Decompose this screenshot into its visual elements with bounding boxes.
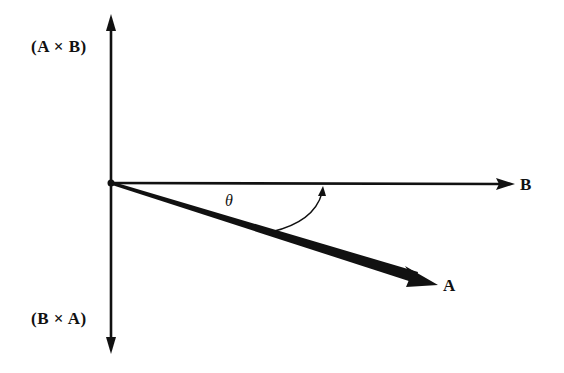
angle-arrowhead-icon [318,186,326,196]
label-vector-b: B [520,176,531,193]
label-angle-theta: θ [225,193,233,209]
cross-product-diagram: (A × B) (B × A) B A θ [0,0,564,373]
label-vector-a: A [443,277,455,294]
arrow-up-icon [106,14,116,31]
label-a-cross-b: (A × B) [31,38,87,55]
origin-point [108,180,115,187]
arrow-down-icon [106,337,116,354]
vector-b [111,178,515,190]
vector-a [110,181,438,287]
label-b-cross-a: (B × A) [31,310,87,327]
angle-arc [271,186,326,232]
